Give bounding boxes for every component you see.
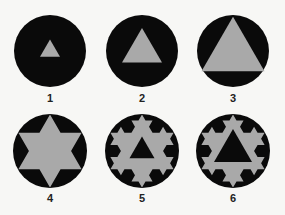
figure-label-1: 1: [40, 92, 60, 104]
koch-snowflake-sequence-diagram: 1 2 3 4 5 6: [0, 0, 285, 215]
figures-canvas: [0, 0, 285, 215]
figure-label-2: 2: [132, 92, 152, 104]
figure-label-6: 6: [223, 192, 243, 204]
figure-label-5: 5: [132, 192, 152, 204]
figure-label-4: 4: [40, 192, 60, 204]
figure-label-3: 3: [223, 92, 243, 104]
